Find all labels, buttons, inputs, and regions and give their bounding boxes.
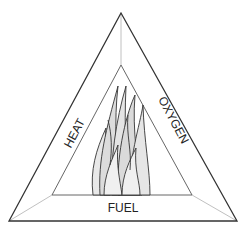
label-heat: HEAT <box>61 116 88 151</box>
fire-triangle-diagram: HEAT OXYGEN FUEL <box>0 0 247 232</box>
label-fuel: FUEL <box>108 201 139 215</box>
